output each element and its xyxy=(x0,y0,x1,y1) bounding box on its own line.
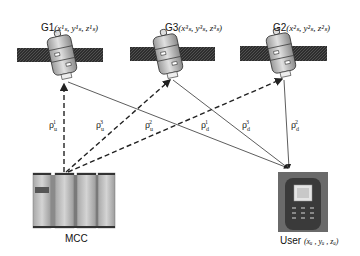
satellite-g2-label: G2(x²ₛ, y²ₛ, z²ₛ) xyxy=(273,22,330,33)
range-label-uplink-1: ρu1 xyxy=(49,119,56,132)
user-name: User xyxy=(280,235,301,246)
satellite-name: G1 xyxy=(41,22,54,33)
range-label-downlink-2: ρd2 xyxy=(291,119,298,132)
user-coords: (xᵤ , yᵤ , zᵤ) xyxy=(304,237,339,246)
range-label-uplink-3: ρu3 xyxy=(96,119,103,132)
satellite-g2-icon xyxy=(240,26,327,79)
range-label-uplink-2: ρu2 xyxy=(145,119,152,132)
satellite-g1-icon xyxy=(17,28,103,81)
downlink-g2 xyxy=(284,80,289,168)
user-device-icon xyxy=(278,172,328,232)
satellite-g1-label: G1(x¹ₛ, y¹ₛ, z¹ₛ) xyxy=(41,22,98,33)
satellite-coords: (x¹ₛ, y¹ₛ, z¹ₛ) xyxy=(54,23,98,33)
mcc-icon xyxy=(33,173,115,228)
satellite-g3-icon xyxy=(130,27,215,80)
range-label-downlink-3: ρd3 xyxy=(242,119,249,132)
range-label-downlink-1: ρd1 xyxy=(201,119,208,132)
downlink-g3 xyxy=(173,80,288,168)
uplink-g3 xyxy=(66,80,170,172)
satellite-coords: (x³ₛ, y³ₛ, z³ₛ) xyxy=(178,23,222,33)
satellite-g3-label: G3(x³ₛ, y³ₛ, z³ₛ) xyxy=(165,22,222,33)
mcc-label: MCC xyxy=(65,233,88,244)
satellite-name: G3 xyxy=(165,22,178,33)
satellite-coords: (x²ₛ, y²ₛ, z²ₛ) xyxy=(286,23,330,33)
user-label: User (xᵤ , yᵤ , zᵤ) xyxy=(280,235,338,246)
satellite-name: G2 xyxy=(273,22,286,33)
